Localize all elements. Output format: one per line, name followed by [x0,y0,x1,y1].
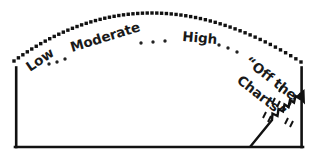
arc-dot [122,13,125,16]
arc-dot [103,17,106,20]
arc-dot [17,56,20,59]
arc-dot [155,11,158,14]
chart-canvas: LowModerateHigh“Off theCharts” [0,0,317,163]
arc-dot [26,50,29,53]
arc-dot [274,45,277,48]
arc-dot [289,54,292,57]
separator-dot [55,60,58,63]
off-the-charts-figure: LowModerateHigh“Off theCharts” [0,0,317,163]
separator-dot [151,40,154,43]
arc-dot [48,37,51,40]
arc-dot [53,35,56,38]
arc-dot [238,29,241,32]
arc-dot [209,19,212,22]
separator-dot [63,57,66,60]
arc-dot [269,43,272,46]
dotted-arc [12,11,302,63]
arc-dot [174,13,177,16]
arc-dot [94,19,97,22]
motion-tick [285,118,288,124]
arc-dot [89,20,92,23]
arc-dot [284,51,287,54]
arc-dot [141,11,144,14]
arc-dot [98,18,101,21]
arc-dot [165,12,168,15]
arc-dot [170,12,173,15]
arc-dot [112,15,115,18]
arc-dot [80,23,83,26]
arc-dot [218,22,221,25]
arc-dot [57,33,60,36]
arc-dot [204,18,207,21]
arc-dot [30,47,33,50]
arc-dot [117,14,120,17]
motion-tick [263,112,266,118]
arc-dot [39,42,42,45]
scale-label-low: Low [23,44,57,74]
arc-dot [150,11,153,14]
arc-dot [243,31,246,34]
arc-dot [127,13,130,16]
arc-dot [253,35,256,38]
arc-dot [248,33,251,36]
separator-dot [139,41,142,44]
arc-dot [189,15,192,18]
arc-dot [294,57,297,60]
arc-dot [184,14,187,17]
arc-dot [179,13,182,16]
separator-dot [226,46,229,49]
arc-dot [66,28,69,31]
arc-dot [136,12,139,15]
arc-dot [299,60,302,63]
arc-dot [44,39,47,42]
arc-dot [35,45,38,48]
arc-dot [160,12,163,15]
arc-dot [62,30,65,33]
arc-dot [214,21,217,24]
arc-dot [21,53,24,56]
arc-dot [228,25,231,28]
separator-dot [235,50,238,53]
arc-dot [199,17,202,20]
scale-label-high: High [182,28,218,47]
arc-dot [75,25,78,28]
motion-tick [290,121,293,127]
arc-dot [223,24,226,27]
arc-dot [264,40,267,43]
arc-dot [108,16,111,19]
separator-dot [217,43,220,46]
arc-dot [258,38,261,41]
arc-dot [71,27,74,30]
arc-dot [233,27,236,30]
arc-dot [12,59,15,62]
arc-dot [146,11,149,14]
arc-dot [131,12,134,15]
arc-dot [194,16,197,19]
arc-dot [85,22,88,25]
arc-dot [279,48,282,51]
separator-dot [163,39,166,42]
scale-label-moderate: Moderate [68,18,142,54]
